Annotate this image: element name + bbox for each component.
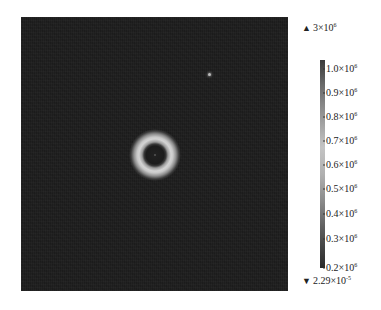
colorbar-tick: 0.3×106: [326, 233, 357, 244]
colorbar-tick: 0.9×106: [326, 87, 357, 98]
down-triangle-icon: ▼: [302, 276, 311, 286]
colorbar-tick: 0.2×106: [326, 262, 357, 273]
bright-spot: [208, 73, 211, 76]
colorbar-tick: 0.5×106: [326, 183, 357, 194]
colorbar-ticks: 1.0×106 0.9×106 0.8×106 0.7×106 0.6×106 …: [326, 60, 381, 268]
colorbar-tick: 0.6×106: [326, 159, 357, 170]
colorbar-tick: 0.7×106: [326, 135, 357, 146]
colorbar-tick: 0.4×106: [326, 208, 357, 219]
colorbar-min-label: ▼2.29×10-5: [302, 275, 351, 286]
intensity-map: [21, 17, 288, 291]
ring-center-dot: [154, 154, 156, 156]
colorbar-tick: 0.8×106: [326, 111, 357, 122]
up-triangle-icon: ▲: [302, 23, 311, 33]
colorbar-tick: 1.0×106: [326, 63, 357, 74]
colorbar-max-label: ▲3×106: [302, 22, 337, 33]
